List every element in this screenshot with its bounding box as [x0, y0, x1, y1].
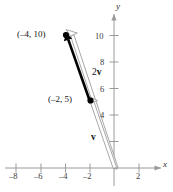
x-tick-label--6: –6 [34, 172, 43, 181]
vector-label-v: v [91, 133, 96, 143]
y-tick-label-4: 4 [100, 111, 104, 120]
x-tick-label--8: –8 [9, 172, 18, 181]
x-axis-label: x [163, 160, 167, 169]
y-axis-arrowhead [111, 14, 116, 21]
x-axis-arrowhead [155, 165, 162, 170]
y-axis-label: y [116, 2, 120, 11]
x-tick-label--2: –2 [83, 172, 92, 181]
point-marker-lower [87, 97, 93, 103]
y-tick-label-10: 10 [95, 32, 104, 41]
vector-diagram-figure: –8 –6 –4 –2 2 4 6 8 10 x y (–4, 10) (–2,… [0, 0, 173, 192]
point-label-upper: (–4, 10) [17, 30, 46, 39]
y-tick-label-8: 8 [100, 58, 104, 67]
y-tick-label-6: 6 [100, 85, 104, 94]
vector-2v-symbol: v [97, 67, 102, 77]
point-marker-upper [63, 32, 69, 38]
vector-label-2v: 2v [92, 68, 102, 78]
x-tick-label--4: –4 [59, 172, 68, 181]
x-tick-label-2: 2 [136, 172, 140, 181]
point-label-lower: (–2, 5) [48, 95, 72, 104]
